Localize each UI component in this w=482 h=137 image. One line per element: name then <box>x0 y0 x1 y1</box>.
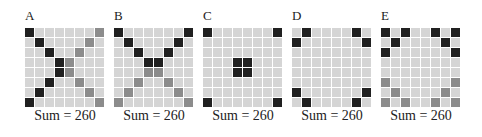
cell-light <box>352 48 361 57</box>
cell-light <box>451 58 460 67</box>
cell-light <box>154 78 163 87</box>
cell-gray <box>381 78 390 87</box>
cell-light <box>243 78 252 87</box>
cell-light <box>322 88 331 97</box>
cell-light <box>85 28 94 37</box>
cell-light <box>411 28 420 37</box>
cell-light <box>312 48 321 57</box>
cell-light <box>174 48 183 57</box>
cell-gray <box>134 78 143 87</box>
cell-light <box>421 48 430 57</box>
cell-light <box>431 58 440 67</box>
cell-light <box>391 48 400 57</box>
cell-gray <box>95 98 104 107</box>
cell-light <box>75 88 84 97</box>
cell-light <box>55 78 64 87</box>
cell-light <box>273 58 282 67</box>
cell-black <box>134 48 143 57</box>
cell-gray <box>65 68 74 77</box>
cell-light <box>332 28 341 37</box>
cell-light <box>292 98 301 107</box>
cell-light <box>342 48 351 57</box>
cell-light <box>243 28 252 37</box>
cell-black <box>45 78 54 87</box>
cell-gray <box>391 88 400 97</box>
cell-light <box>302 88 311 97</box>
cell-light <box>401 48 410 57</box>
cell-black <box>184 28 193 37</box>
cell-black <box>233 68 242 77</box>
cell-light <box>124 78 133 87</box>
cell-light <box>451 68 460 77</box>
cell-light <box>144 28 153 37</box>
cell-black <box>352 98 361 107</box>
cell-light <box>65 98 74 107</box>
cell-light <box>391 98 400 107</box>
cell-light <box>213 28 222 37</box>
cell-light <box>223 28 232 37</box>
cell-light <box>203 48 212 57</box>
panel-a: A Sum = 260 <box>25 0 115 137</box>
cell-light <box>421 28 430 37</box>
cell-black <box>25 98 34 107</box>
cell-black <box>45 48 54 57</box>
cell-gray <box>114 98 123 107</box>
cell-light <box>154 48 163 57</box>
cell-light <box>164 58 173 67</box>
cell-light <box>25 38 34 47</box>
cell-light <box>381 88 390 97</box>
cell-light <box>302 38 311 47</box>
cell-light <box>124 98 133 107</box>
cell-light <box>124 48 133 57</box>
cell-light <box>253 58 262 67</box>
cell-black <box>451 48 460 57</box>
cell-light <box>352 68 361 77</box>
cell-light <box>332 48 341 57</box>
cell-gray <box>451 98 460 107</box>
cell-light <box>312 88 321 97</box>
cell-light <box>134 68 143 77</box>
cell-light <box>401 38 410 47</box>
cell-light <box>213 68 222 77</box>
cell-light <box>342 88 351 97</box>
cell-black <box>441 38 450 47</box>
cell-light <box>223 38 232 47</box>
cell-gray <box>431 98 440 107</box>
cell-black <box>362 38 371 47</box>
cell-light <box>332 68 341 77</box>
cell-gray <box>174 88 183 97</box>
cell-light <box>95 58 104 67</box>
cell-black <box>124 38 133 47</box>
panel-label: D <box>292 8 301 24</box>
panel-label: B <box>114 8 123 24</box>
cell-black <box>35 38 44 47</box>
cell-light <box>441 98 450 107</box>
cell-light <box>174 68 183 77</box>
cell-light <box>75 38 84 47</box>
cell-light <box>391 58 400 67</box>
cell-light <box>45 68 54 77</box>
cell-light <box>451 88 460 97</box>
cell-light <box>322 68 331 77</box>
cell-light <box>292 68 301 77</box>
cell-light <box>332 78 341 87</box>
cell-light <box>184 88 193 97</box>
cell-light <box>25 58 34 67</box>
cell-light <box>292 58 301 67</box>
cell-black <box>273 28 282 37</box>
cell-light <box>263 38 272 47</box>
cell-light <box>233 38 242 47</box>
cell-black <box>55 68 64 77</box>
cell-light <box>203 58 212 67</box>
cell-light <box>174 98 183 107</box>
cell-light <box>203 78 212 87</box>
cell-light <box>144 98 153 107</box>
cell-light <box>253 38 262 47</box>
cell-light <box>401 88 410 97</box>
cell-light <box>35 68 44 77</box>
cell-light <box>322 48 331 57</box>
cell-light <box>233 98 242 107</box>
cell-black <box>302 98 311 107</box>
cell-light <box>332 98 341 107</box>
cell-light <box>114 88 123 97</box>
